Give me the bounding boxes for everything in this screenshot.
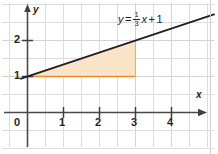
y-tick-label-1: 1	[14, 70, 20, 81]
equation-variable: x	[142, 13, 148, 25]
equation-label: y = 1 3 x + 1	[118, 11, 163, 28]
y-axis-label: y	[33, 5, 39, 15]
y-tick-label-2: 2	[14, 34, 20, 45]
equation-constant: 1	[157, 13, 163, 25]
x-tick-label-2: 2	[95, 117, 101, 128]
equation-fraction: 1 3	[133, 11, 139, 28]
equation-lhs: y	[118, 13, 124, 25]
x-tick-label-1: 1	[59, 117, 65, 128]
x-axis	[4, 109, 207, 116]
x-axis-label: x	[196, 90, 202, 100]
plot-canvas	[0, 0, 218, 154]
equation-equals: =	[125, 13, 131, 25]
graph-figure: y = 1 3 x + 1 1 2 3 4 1 2 0 x y	[0, 0, 218, 154]
fraction-denominator: 3	[133, 19, 139, 28]
x-tick-label-4: 4	[167, 117, 173, 128]
x-tick-label-3: 3	[131, 117, 137, 128]
origin-label: 0	[14, 117, 20, 128]
equation-plus: +	[149, 13, 155, 25]
fraction-numerator: 1	[133, 11, 139, 19]
